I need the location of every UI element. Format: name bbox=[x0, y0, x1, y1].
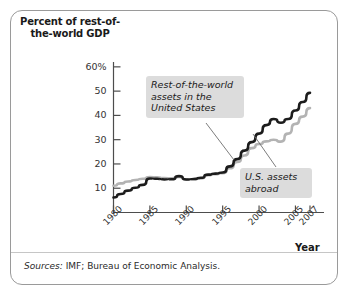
x-axis-ticks bbox=[114, 206, 311, 213]
footer-divider bbox=[11, 252, 337, 253]
annotation-rest-of-world-assets: Rest-of-the-world assets in the United S… bbox=[146, 76, 244, 118]
y-axis-tick-label: 30 bbox=[73, 134, 107, 145]
y-axis-tick-label: 40 bbox=[73, 109, 107, 120]
plot-area bbox=[0, 0, 353, 300]
y-axis-tick-label: 50 bbox=[73, 85, 107, 96]
sources-label: Sources: bbox=[24, 261, 63, 271]
y-axis-ticks bbox=[114, 67, 121, 188]
y-axis-tick-label: 10 bbox=[73, 182, 107, 193]
figure-root: Percent of rest-of-the-world GDP 60%5040… bbox=[0, 0, 353, 300]
annotation-us-assets-abroad: U.S. assets abroad bbox=[240, 168, 312, 198]
sources-note: Sources: IMF; Bureau of Economic Analysi… bbox=[24, 261, 220, 271]
line-chart-svg bbox=[0, 0, 353, 300]
y-axis-tick-label: 20 bbox=[73, 158, 107, 169]
leader-line-row-assets bbox=[206, 123, 234, 160]
y-axis-tick-label: 60% bbox=[73, 61, 107, 72]
sources-text: IMF; Bureau of Economic Analysis. bbox=[63, 261, 220, 271]
